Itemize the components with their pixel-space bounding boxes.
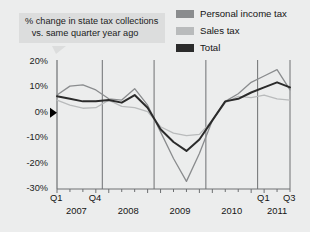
y-tick-label-5: -30% xyxy=(12,183,48,193)
x-tick-label-0: Q1 xyxy=(50,192,63,203)
legend-label-personal-income-tax: Personal income tax xyxy=(200,8,287,19)
legend-swatch-personal-income-tax xyxy=(176,10,194,18)
x-tick-label-2: Q1 xyxy=(257,192,270,203)
y-tick-label-1: 10% xyxy=(12,81,48,91)
y-tick-label-0: 20% xyxy=(12,56,48,66)
x-tick-label-3: Q3 xyxy=(283,192,296,203)
legend-label-sales-tax: Sales tax xyxy=(200,25,239,36)
legend-swatch-total xyxy=(176,44,194,52)
chart-legend: Personal income tax Sales tax Total xyxy=(176,6,308,57)
x-tick-label-1: Q4 xyxy=(89,192,102,203)
legend-item-total: Total xyxy=(176,40,308,55)
legend-swatch-sales-tax xyxy=(176,27,194,35)
y-tick-label-3: -10% xyxy=(12,132,48,142)
legend-item-personal-income-tax: Personal income tax xyxy=(176,6,308,21)
chart-screenshot: % change in state tax collections vs. sa… xyxy=(0,0,310,232)
legend-item-sales-tax: Sales tax xyxy=(176,23,308,38)
y-tick-label-4: -20% xyxy=(12,158,48,168)
legend-label-total: Total xyxy=(200,42,220,53)
year-label-2008: 2008 xyxy=(108,205,148,216)
year-label-2007: 2007 xyxy=(56,205,96,216)
year-label-2011: 2011 xyxy=(257,205,297,216)
y-tick-label-2: 0% xyxy=(12,107,48,117)
year-label-2009: 2009 xyxy=(160,205,200,216)
year-label-2010: 2010 xyxy=(212,205,252,216)
